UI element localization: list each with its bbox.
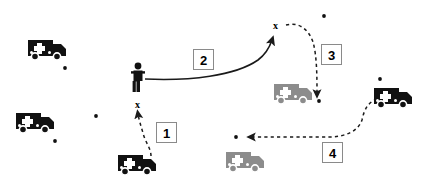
- map-dot: [234, 135, 238, 139]
- ambulance-wheel: [377, 101, 384, 108]
- map-dot: [53, 139, 57, 143]
- ambulance-icon: [374, 88, 412, 108]
- ambulance-light: [138, 166, 141, 169]
- person-body: [133, 71, 143, 93]
- ambulance-light: [36, 124, 39, 127]
- map-dot: [317, 99, 321, 103]
- ambulance-light: [246, 163, 249, 166]
- ambulance-wheel: [299, 97, 306, 104]
- ambulance-icon: [118, 155, 156, 175]
- arrow-step-4: [251, 99, 377, 137]
- arrow-step-1: [138, 114, 151, 156]
- ambulance-light: [294, 95, 297, 98]
- ambulance-light: [376, 99, 379, 102]
- step-label-3[interactable]: 3: [321, 44, 342, 65]
- ambulance-light: [18, 124, 21, 127]
- ambulance-light: [120, 166, 123, 169]
- ambulance-wheel: [399, 101, 406, 108]
- map-dots: [53, 14, 382, 143]
- ambulance-wheel: [229, 165, 236, 172]
- ambulance-light: [228, 163, 231, 166]
- person-head: [135, 63, 142, 70]
- step-label-4[interactable]: 4: [322, 142, 343, 163]
- ambulance-icon: [226, 152, 264, 172]
- ambulance-fleet: [16, 40, 412, 175]
- x-marker: x: [273, 21, 278, 31]
- x-marker: x: [135, 100, 140, 110]
- map-dot: [94, 114, 98, 118]
- ambulance-light: [30, 51, 33, 54]
- ambulance-light: [394, 99, 397, 102]
- ambulance-wheel: [251, 165, 258, 172]
- ambulance-icon: [16, 113, 54, 133]
- ambulance-wheel: [19, 126, 26, 133]
- ambulance-wheel: [31, 53, 38, 60]
- map-dot: [63, 66, 67, 70]
- diagram-canvas: xx 1234: [0, 0, 426, 192]
- ambulance-icon: [274, 84, 312, 104]
- ambulance-icon: [28, 40, 66, 60]
- diagram-vector-layer: [0, 0, 426, 192]
- step-label-2[interactable]: 2: [193, 49, 214, 70]
- ambulance-wheel: [121, 168, 128, 175]
- ambulance-light: [276, 95, 279, 98]
- person-icon: [131, 63, 145, 92]
- ambulance-wheel: [277, 97, 284, 104]
- map-dot: [378, 77, 382, 81]
- ambulance-wheel: [143, 168, 150, 175]
- ambulance-wheel: [41, 126, 48, 133]
- step-label-1[interactable]: 1: [156, 122, 177, 143]
- person-arms: [131, 71, 145, 73]
- ambulance-light: [48, 51, 51, 54]
- map-dot: [322, 14, 326, 18]
- person-layer: [131, 63, 145, 92]
- ambulance-wheel: [53, 53, 60, 60]
- arrow-step-3: [286, 24, 317, 94]
